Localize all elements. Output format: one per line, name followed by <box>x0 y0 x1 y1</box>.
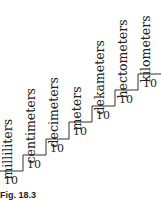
step-factor-5: 10 <box>96 110 110 121</box>
step-factor-6: 10 <box>119 94 133 105</box>
figure-caption: Fig. 18.3 <box>0 190 36 200</box>
step-label-meters: meters <box>71 86 84 130</box>
step-factor-3: 10 <box>50 143 64 154</box>
step-factor-2: 10 <box>27 159 41 170</box>
step-factor-4: 10 <box>73 126 87 137</box>
step-factor-1: 10 <box>4 175 18 186</box>
step-factor-7: 10 <box>143 78 157 89</box>
step-label-decimeters: decimeters <box>48 77 61 147</box>
step-label-kilometers: kilometers <box>140 15 153 82</box>
step-label-hectometers: hectometers <box>117 19 130 98</box>
step-label-milliliters: milliliters <box>2 119 15 180</box>
step-label-dekameters: dekameters <box>94 40 107 115</box>
step-label-centimeters: centimeters <box>25 88 38 164</box>
